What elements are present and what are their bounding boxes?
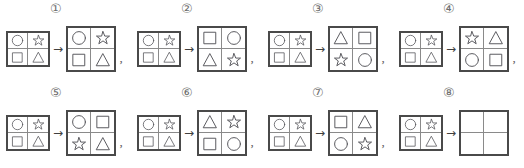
grid-cell-3 xyxy=(270,133,290,149)
grid-cell-1 xyxy=(139,33,159,49)
circle-icon xyxy=(142,34,155,47)
star-icon xyxy=(163,34,176,47)
triangle-icon xyxy=(488,30,504,46)
grid-cell-1 xyxy=(68,28,91,49)
square-icon xyxy=(142,51,155,64)
star-icon xyxy=(333,52,349,68)
item-number-label: ④ xyxy=(443,2,455,15)
grid-cell-4 xyxy=(290,133,310,149)
circle-icon xyxy=(464,52,480,68)
item-separator: , xyxy=(509,51,519,72)
exercise-item[interactable]: ⑦→, xyxy=(262,84,393,168)
square-icon xyxy=(95,114,111,130)
arrow-icon: → xyxy=(50,43,66,55)
triangle-icon xyxy=(294,51,307,64)
arrow-icon: → xyxy=(443,43,459,55)
grid-cell-4 xyxy=(353,133,376,154)
grid-cell-1 xyxy=(401,117,421,133)
triangle-icon xyxy=(202,114,218,130)
result-grid xyxy=(459,110,509,156)
circle-icon xyxy=(71,30,87,46)
grid-cell-4 xyxy=(222,49,245,70)
grid-cell-3 xyxy=(8,133,28,149)
exercise-item[interactable]: ②→, xyxy=(131,0,262,84)
grid-cell-2 xyxy=(484,28,507,49)
grid-cell-4 xyxy=(421,133,441,149)
grid-cell-3 xyxy=(401,133,421,149)
square-icon xyxy=(488,52,504,68)
triangle-icon xyxy=(163,51,176,64)
star-icon xyxy=(71,136,87,152)
item-number-label: ② xyxy=(181,2,193,15)
item-separator: , xyxy=(378,135,388,156)
grid-cell-4 xyxy=(290,49,310,65)
square-icon xyxy=(11,51,24,64)
circle-icon xyxy=(71,114,87,130)
grid-cell-3 xyxy=(139,133,159,149)
source-grid xyxy=(6,115,50,151)
grid-cell-4 xyxy=(91,49,114,70)
grid-cell-2 xyxy=(28,117,48,133)
grid-cell-3 xyxy=(270,49,290,65)
exercise-item[interactable]: ④→, xyxy=(393,0,524,84)
transformation-pair: →, xyxy=(0,26,126,72)
exercise-item[interactable]: ③→, xyxy=(262,0,393,84)
grid-cell-3 xyxy=(401,49,421,65)
source-grid xyxy=(268,115,312,151)
exercise-item[interactable]: ⑤→, xyxy=(0,84,131,168)
result-grid xyxy=(328,26,378,72)
triangle-icon xyxy=(333,30,349,46)
result-grid xyxy=(197,26,247,72)
arrow-icon: → xyxy=(50,127,66,139)
result-grid xyxy=(197,110,247,156)
item-separator: , xyxy=(247,135,257,156)
item-number-label: ⑦ xyxy=(312,86,324,99)
item-separator: , xyxy=(378,51,388,72)
star-icon xyxy=(425,118,438,131)
exercise-item[interactable]: ①→, xyxy=(0,0,131,84)
grid-cell-1 xyxy=(199,112,222,133)
result-grid xyxy=(328,110,378,156)
grid-cell-2 xyxy=(91,112,114,133)
circle-icon xyxy=(11,118,24,131)
arrow-icon: → xyxy=(181,127,197,139)
grid-cell-4 xyxy=(353,49,376,70)
square-icon xyxy=(142,135,155,148)
grid-cell-3 xyxy=(461,49,484,70)
circle-icon xyxy=(357,52,373,68)
grid-cell-1 xyxy=(330,112,353,133)
transformation-pair: →, xyxy=(262,26,388,72)
grid-cell-2 xyxy=(353,28,376,49)
star-icon xyxy=(357,136,373,152)
arrow-icon: → xyxy=(312,43,328,55)
item-number-label: ⑥ xyxy=(181,86,193,99)
grid-cell-2 xyxy=(290,33,310,49)
grid-cell-3 xyxy=(461,133,484,154)
circle-icon xyxy=(273,118,286,131)
grid-cell-2 xyxy=(222,28,245,49)
grid-cell-2 xyxy=(290,117,310,133)
triangle-icon xyxy=(95,52,111,68)
grid-cell-2 xyxy=(421,117,441,133)
triangle-icon xyxy=(32,135,45,148)
item-separator: , xyxy=(116,135,126,156)
star-icon xyxy=(226,52,242,68)
grid-cell-2 xyxy=(484,112,507,133)
grid-cell-3 xyxy=(199,49,222,70)
grid-cell-3 xyxy=(8,49,28,65)
grid-cell-2 xyxy=(353,112,376,133)
exercise-item[interactable]: ⑥→, xyxy=(131,84,262,168)
exercise-row: ①→,②→,③→,④→, xyxy=(0,0,524,84)
square-icon xyxy=(11,135,24,148)
grid-cell-2 xyxy=(159,117,179,133)
item-separator: , xyxy=(247,51,257,72)
grid-cell-4 xyxy=(28,49,48,65)
exercise-item[interactable]: ⑧→, xyxy=(393,84,524,168)
grid-cell-1 xyxy=(8,117,28,133)
circle-icon xyxy=(226,136,242,152)
transformation-pair: →, xyxy=(262,110,388,156)
star-icon xyxy=(425,34,438,47)
square-icon xyxy=(202,30,218,46)
grid-cell-3 xyxy=(330,133,353,154)
square-icon xyxy=(333,114,349,130)
